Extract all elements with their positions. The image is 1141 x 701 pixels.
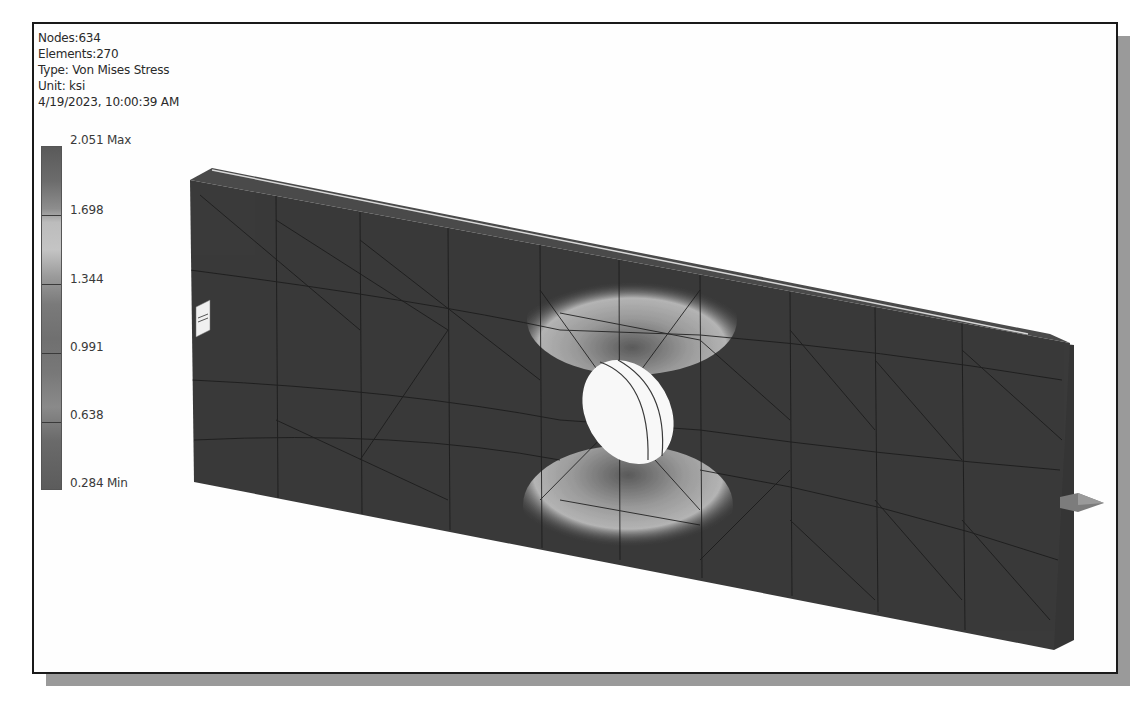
force-arrow-icon[interactable] — [1060, 493, 1104, 512]
elements-count: Elements:270 — [38, 46, 179, 62]
legend-divider — [42, 284, 61, 285]
stress-zone-top — [527, 265, 737, 375]
nodes-count: Nodes:634 — [38, 30, 179, 46]
color-legend-bar — [41, 146, 62, 490]
legend-label-max: 2.051 Max — [70, 133, 131, 147]
result-info-panel: Nodes:634 Elements:270 Type: Von Mises S… — [38, 30, 179, 110]
legend-label-min: 0.284 Min — [70, 476, 128, 490]
legend-label: 0.638 — [70, 408, 103, 422]
legend-divider — [42, 215, 61, 216]
legend-label: 1.344 — [70, 272, 103, 286]
result-timestamp: 4/19/2023, 10:00:39 AM — [38, 94, 179, 110]
result-type: Type: Von Mises Stress — [38, 62, 179, 78]
result-unit: Unit: ksi — [38, 78, 179, 94]
legend-divider — [42, 353, 61, 354]
legend-divider — [42, 422, 61, 423]
legend-label: 1.698 — [70, 203, 103, 217]
legend-label: 0.991 — [70, 340, 103, 354]
